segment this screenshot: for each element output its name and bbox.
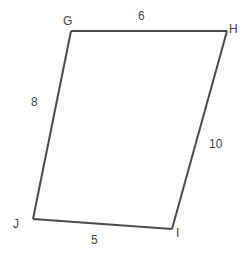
side-jg — [33, 31, 71, 219]
vertex-label-h: H — [229, 22, 238, 36]
side-ij — [33, 219, 172, 229]
side-hi — [172, 31, 227, 229]
side-length-hi: 10 — [209, 137, 223, 151]
quadrilateral-diagram: G H I J 6 8 10 5 — [0, 0, 250, 254]
side-length-gh: 6 — [138, 9, 145, 23]
side-length-gj: 8 — [31, 95, 38, 109]
vertex-label-g: G — [63, 14, 72, 28]
side-length-ji: 5 — [91, 233, 98, 247]
vertex-label-i: I — [176, 226, 179, 240]
vertex-label-j: J — [13, 217, 19, 231]
